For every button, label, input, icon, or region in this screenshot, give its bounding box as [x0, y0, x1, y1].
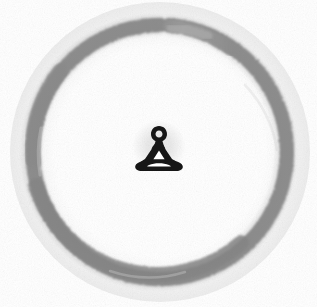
meditating-figure: [0, 0, 317, 307]
artwork-canvas: Enso with Seated Meditation Figure A han…: [0, 0, 317, 307]
artboard: [0, 0, 317, 307]
